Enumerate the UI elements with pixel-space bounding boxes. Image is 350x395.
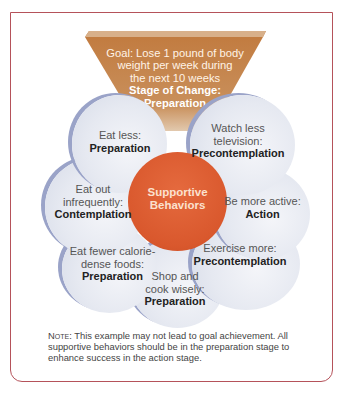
center-label: Supportive Behaviors [128, 186, 227, 212]
behavior-watch-tv: Watch less television: Precontemplation [188, 122, 288, 160]
footnote: Note: This example may not lead to goal … [48, 330, 308, 364]
behavior-eat-less: Eat less: Preparation [70, 129, 170, 154]
behavior-exercise: Exercise more: Precontemplation [190, 242, 290, 267]
behavior-eat-out: Eat out infrequently: Contemplation [48, 183, 138, 221]
behavior-be-active: Be more active: Action [215, 195, 310, 220]
behavior-shop-cook: Shop and cook wisely: Preparation [130, 270, 220, 308]
